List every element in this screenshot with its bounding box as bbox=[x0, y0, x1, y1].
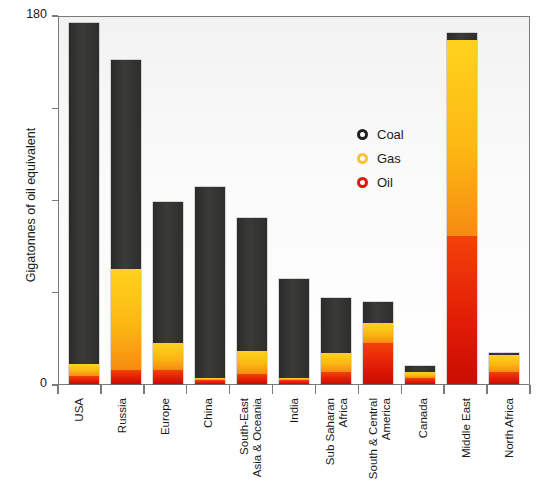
bar-column[interactable] bbox=[363, 17, 393, 384]
ring-icon bbox=[357, 153, 368, 164]
stacked-bar[interactable] bbox=[279, 279, 309, 384]
x-axis-label-line: America bbox=[380, 398, 393, 494]
x-axis-label: Canada bbox=[417, 398, 430, 494]
chart-legend: CoalGasOil bbox=[357, 124, 477, 196]
x-axis-label: Europe bbox=[159, 398, 172, 494]
legend-item-label: Oil bbox=[377, 175, 393, 190]
bar-segment-oil[interactable] bbox=[153, 370, 183, 384]
x-axis-tick bbox=[272, 385, 273, 394]
plot-area bbox=[58, 16, 530, 385]
stacked-bar[interactable] bbox=[237, 218, 267, 384]
x-axis-label-line: Africa bbox=[337, 398, 350, 494]
x-axis-tick bbox=[57, 385, 58, 394]
bar-segment-coal[interactable] bbox=[321, 298, 351, 353]
x-axis-tick bbox=[229, 385, 230, 394]
x-axis-label: USA bbox=[73, 398, 86, 494]
x-axis-tick bbox=[186, 385, 187, 394]
stacked-bar[interactable] bbox=[489, 353, 519, 384]
bar-segment-oil[interactable] bbox=[405, 378, 435, 384]
x-axis-label-line: Canada bbox=[417, 398, 430, 494]
y-axis-tick-label: 180 bbox=[0, 7, 47, 21]
bar-column[interactable] bbox=[447, 17, 477, 384]
bar-column[interactable] bbox=[321, 17, 351, 384]
x-axis-label: Russia bbox=[116, 398, 129, 494]
bar-segment-oil[interactable] bbox=[363, 343, 393, 384]
x-axis-tick bbox=[100, 385, 101, 394]
bar-segment-coal[interactable] bbox=[279, 279, 309, 377]
x-axis-label-line: China bbox=[202, 398, 215, 494]
bar-segment-coal[interactable] bbox=[237, 218, 267, 351]
ring-icon bbox=[357, 129, 368, 140]
legend-item-oil[interactable]: Oil bbox=[357, 172, 477, 192]
x-axis-label-line: South-East bbox=[238, 398, 251, 494]
x-axis-tick bbox=[358, 385, 359, 394]
bar-segment-gas[interactable] bbox=[111, 269, 141, 369]
bar-column[interactable] bbox=[489, 17, 519, 384]
y-axis-tick bbox=[52, 292, 58, 293]
chart-figure: Gigatonnes of oil equivalent 0180 USARus… bbox=[0, 0, 540, 496]
y-axis-tick-label: 0 bbox=[0, 376, 47, 390]
legend-item-coal[interactable]: Coal bbox=[357, 124, 477, 144]
bar-segment-oil[interactable] bbox=[279, 380, 309, 384]
x-axis-tick bbox=[401, 385, 402, 394]
bar-column[interactable] bbox=[195, 17, 225, 384]
stacked-bar[interactable] bbox=[363, 302, 393, 384]
x-axis-label-line: Sub Saharan bbox=[324, 398, 337, 494]
x-axis-label-line: North Africa bbox=[503, 398, 516, 494]
bar-segment-gas[interactable] bbox=[363, 323, 393, 344]
bar-series-container bbox=[59, 17, 529, 384]
bar-segment-coal[interactable] bbox=[195, 187, 225, 378]
x-axis-labels: USARussiaEuropeChinaSouth-EastAsia & Oce… bbox=[58, 394, 530, 494]
x-axis-label: South-EastAsia & Oceania bbox=[238, 398, 264, 494]
ring-icon bbox=[357, 177, 368, 188]
bar-segment-gas[interactable] bbox=[69, 364, 99, 376]
bar-segment-oil[interactable] bbox=[237, 374, 267, 384]
x-axis-ticks bbox=[58, 385, 530, 394]
stacked-bar[interactable] bbox=[321, 298, 351, 384]
legend-item-label: Gas bbox=[377, 151, 401, 166]
x-axis-label-line: South & Central bbox=[367, 398, 380, 494]
stacked-bar[interactable] bbox=[111, 60, 141, 384]
x-axis-tick bbox=[315, 385, 316, 394]
x-axis-label-line: Russia bbox=[116, 398, 129, 494]
x-axis-label: Middle East bbox=[460, 398, 473, 494]
bar-column[interactable] bbox=[69, 17, 99, 384]
bar-segment-oil[interactable] bbox=[69, 376, 99, 384]
y-axis-tick bbox=[52, 108, 58, 109]
legend-item-gas[interactable]: Gas bbox=[357, 148, 477, 168]
bar-column[interactable] bbox=[237, 17, 267, 384]
bar-segment-coal[interactable] bbox=[153, 202, 183, 343]
bar-segment-oil[interactable] bbox=[489, 372, 519, 384]
bar-segment-coal[interactable] bbox=[69, 23, 99, 363]
bar-segment-oil[interactable] bbox=[195, 380, 225, 384]
x-axis-tick bbox=[529, 385, 530, 394]
bar-column[interactable] bbox=[111, 17, 141, 384]
stacked-bar[interactable] bbox=[405, 366, 435, 384]
y-axis-tick bbox=[52, 200, 58, 201]
bar-segment-oil[interactable] bbox=[447, 236, 477, 384]
stacked-bar[interactable] bbox=[447, 33, 477, 384]
x-axis-label-line: Europe bbox=[159, 398, 172, 494]
bar-segment-oil[interactable] bbox=[321, 372, 351, 384]
bar-column[interactable] bbox=[405, 17, 435, 384]
legend-item-label: Coal bbox=[377, 127, 404, 142]
stacked-bar[interactable] bbox=[153, 202, 183, 384]
x-axis-label-line: USA bbox=[73, 398, 86, 494]
stacked-bar[interactable] bbox=[69, 23, 99, 384]
bar-segment-gas[interactable] bbox=[489, 355, 519, 371]
bar-column[interactable] bbox=[279, 17, 309, 384]
y-axis-title: Gigatonnes of oil equivalent bbox=[24, 90, 38, 320]
bar-segment-gas[interactable] bbox=[237, 351, 267, 374]
bar-segment-oil[interactable] bbox=[111, 370, 141, 384]
x-axis-tick bbox=[143, 385, 144, 394]
x-axis-label: Sub SaharanAfrica bbox=[324, 398, 350, 494]
bar-segment-coal[interactable] bbox=[363, 302, 393, 323]
bar-segment-gas[interactable] bbox=[153, 343, 183, 370]
x-axis-tick bbox=[486, 385, 487, 394]
bar-segment-gas[interactable] bbox=[321, 353, 351, 371]
bar-segment-coal[interactable] bbox=[111, 60, 141, 269]
stacked-bar[interactable] bbox=[195, 187, 225, 384]
bar-column[interactable] bbox=[153, 17, 183, 384]
x-axis-label: China bbox=[202, 398, 215, 494]
x-axis-tick bbox=[443, 385, 444, 394]
